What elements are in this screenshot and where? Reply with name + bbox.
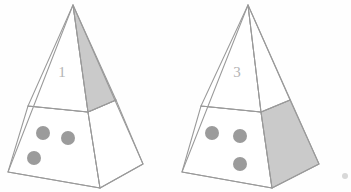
pyramid-left-dot (61, 131, 75, 145)
pyramid-left-dot (36, 126, 50, 140)
pyramid-left-lower-left-face (8, 106, 100, 188)
pyramid-right-dot (233, 157, 247, 171)
pyramid-left-dot (27, 151, 41, 165)
pyramid-right-dot (233, 129, 247, 143)
pyramid-right-lower-left-face (182, 106, 272, 188)
pyramid-left-label: 1 (58, 64, 66, 80)
pyramid-right-label: 3 (233, 64, 241, 80)
scan-speck-icon (342, 173, 348, 179)
pyramid-left: 1 (8, 5, 143, 188)
pyramids-figure: 1 3 (0, 0, 351, 192)
figure-canvas: 1 3 (0, 0, 351, 192)
pyramid-right-dot (205, 126, 219, 140)
pyramid-right: 3 (182, 5, 319, 188)
